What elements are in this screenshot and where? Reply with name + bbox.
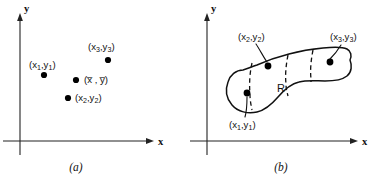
panel-b-x-axis-label: x (362, 136, 368, 147)
region-point-1 (244, 90, 251, 97)
panel-a-x-axis-label: x (158, 136, 164, 147)
panel-a-x-axis (3, 138, 154, 144)
region-point-label-3: (x3,y3) (330, 31, 357, 44)
data-point-3 (105, 57, 111, 63)
point-label-2: (x2,y2) (75, 92, 102, 105)
data-point-1 (41, 72, 47, 78)
leader-line-point-2 (256, 44, 267, 62)
region-point-3 (327, 59, 334, 66)
region-label-R: R (277, 82, 285, 94)
x-axis-arrowhead (350, 138, 358, 144)
panel-a-y-axis (17, 13, 23, 155)
panel-b-y-axis (204, 13, 210, 155)
x-axis-arrowhead (146, 138, 154, 144)
data-point-mean (73, 77, 79, 83)
panel-a: y x (x1,y1) (x3,y3) (x̅ , y̅) (x2,y2) (a… (3, 3, 164, 174)
region-divider-2 (286, 55, 288, 96)
panel-b-caption: (b) (274, 161, 288, 174)
panel-b-y-axis-label: y (211, 3, 217, 14)
panel-b-x-axis (190, 138, 358, 144)
data-point-2 (65, 95, 71, 101)
leader-line-point-1 (245, 97, 247, 117)
panel-a-y-axis-label: y (24, 3, 30, 14)
point-label-mean: (x̅ , y̅) (84, 74, 108, 85)
region-point-label-2: (x2,y2) (238, 31, 265, 44)
region-point-label-1: (x1,y1) (229, 119, 256, 132)
y-axis-arrowhead (204, 13, 210, 21)
region-point-2 (265, 63, 272, 70)
y-axis-arrowhead (17, 13, 23, 21)
point-label-3: (x3,y3) (88, 41, 115, 54)
figure-container: y x (x1,y1) (x3,y3) (x̅ , y̅) (x2,y2) (a… (0, 0, 375, 175)
region-divider-3 (311, 50, 313, 82)
point-label-1: (x1,y1) (29, 59, 56, 72)
region-divider-1 (250, 63, 252, 110)
panel-b: y x R (x2,y2) (190, 3, 368, 174)
panel-a-caption: (a) (69, 161, 83, 174)
figure-svg: y x (x1,y1) (x3,y3) (x̅ , y̅) (x2,y2) (a… (0, 0, 375, 175)
